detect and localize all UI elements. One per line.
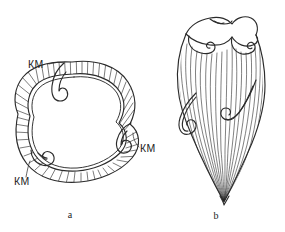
label-km-upper-left: КМ xyxy=(28,58,44,70)
label-km-right: КМ xyxy=(140,142,156,154)
caption-panel-b: b xyxy=(214,210,219,221)
panel-a-cross-section: КМ КМ КМ a xyxy=(11,50,156,220)
figure-container: КМ КМ КМ a xyxy=(0,0,285,232)
panel-b-lateral-view: b xyxy=(177,17,265,221)
caption-panel-a: a xyxy=(68,209,73,220)
label-km-lower-left: КМ xyxy=(14,175,30,187)
panel-a-shell-hatching xyxy=(11,50,145,191)
panel-b-top-rim xyxy=(186,17,258,54)
figure-svg: КМ КМ КМ a xyxy=(0,0,285,232)
panel-b-ribbing xyxy=(178,34,264,201)
